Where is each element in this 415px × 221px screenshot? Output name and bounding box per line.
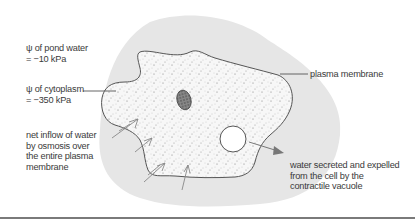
cytoplasm-potential-text: ψ of cytoplasm xyxy=(26,84,84,95)
pond-water-value-text: = −10 kPa xyxy=(26,54,88,65)
contractile-vacuole xyxy=(220,126,246,152)
diagram-canvas: ψ of pond water = −10 kPa ψ of cytoplasm… xyxy=(0,0,415,221)
plasma-membrane-text: plasma membrane xyxy=(310,69,383,80)
bottom-divider xyxy=(0,217,415,219)
plasma-membrane-label: plasma membrane xyxy=(310,69,383,80)
pond-water-potential-text: ψ of pond water xyxy=(26,43,88,54)
inflow-text-line: net inflow of water xyxy=(26,130,96,141)
inflow-text-line: membrane xyxy=(26,162,96,173)
inflow-text-line: by osmosis over xyxy=(26,141,96,152)
cytoplasm-value-text: = −350 kPa xyxy=(26,95,84,106)
inflow-text-line: the entire plasma xyxy=(26,151,96,162)
pond-water-label: ψ of pond water = −10 kPa xyxy=(26,43,88,64)
cytoplasm-label: ψ of cytoplasm = −350 kPa xyxy=(26,84,84,105)
contractile-vacuole-label: water secreted and expelled from the cel… xyxy=(290,160,400,192)
vacuole-text-line: from the cell by the xyxy=(290,171,400,182)
vacuole-text-line: water secreted and expelled xyxy=(290,160,400,171)
vacuole-text-line: contractile vacuole xyxy=(290,181,400,192)
osmosis-inflow-label: net inflow of water by osmosis over the … xyxy=(26,130,96,172)
